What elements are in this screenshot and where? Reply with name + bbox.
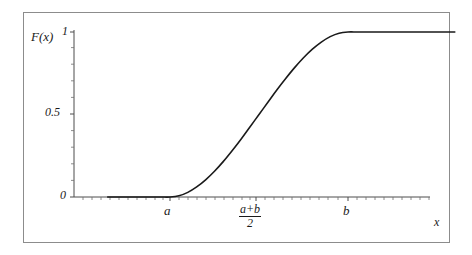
x-tick-label-a: a	[164, 204, 171, 217]
figure-container: F(x) 1 0.5 0 a a+b 2 b x	[0, 0, 472, 255]
x-tick-label-midpoint: a+b 2	[239, 203, 261, 229]
x-tick-label-b: b	[343, 204, 350, 217]
y-tick-label-0: 0	[60, 189, 66, 201]
plot-canvas	[0, 0, 472, 255]
y-axis-major-ticks	[70, 32, 74, 197]
y-axis-label: F(x)	[31, 30, 53, 43]
y-tick-label-1: 1	[62, 25, 68, 37]
fraction-denominator: 2	[239, 217, 261, 230]
fraction-numerator: a+b	[239, 203, 261, 217]
y-tick-label-0.5: 0.5	[45, 106, 60, 118]
cdf-curve	[108, 32, 455, 197]
x-axis-label: x	[434, 216, 439, 228]
fraction: a+b 2	[239, 203, 261, 229]
